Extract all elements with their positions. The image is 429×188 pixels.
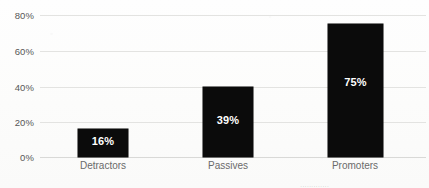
ytick-label-80: 80%	[0, 11, 34, 21]
category-label-passives: Passives	[188, 161, 268, 171]
bar-value-promoters: 75%	[328, 77, 383, 88]
ytick-label-0: 0%	[0, 153, 34, 163]
bar-chart: 80% 60% 40% 20% 0% 16% 39% 75% Detractor…	[0, 0, 429, 188]
category-label-promoters: Promoters	[310, 161, 400, 171]
ytick-label-40: 40%	[0, 83, 34, 93]
clipped-text-artifact: .............	[300, 181, 429, 188]
axis-baseline-0	[40, 157, 426, 158]
ytick-label-20: 20%	[0, 118, 34, 128]
gridline-80	[40, 15, 426, 16]
bar-value-passives: 39%	[203, 115, 253, 126]
ytick-label-60: 60%	[0, 47, 34, 57]
bar-value-detractors: 16%	[78, 136, 128, 147]
plot-area: 80% 60% 40% 20% 0% 16% 39% 75% Detractor…	[0, 0, 429, 188]
category-label-detractors: Detractors	[58, 161, 148, 171]
bar-promoters[interactable]	[328, 24, 383, 157]
